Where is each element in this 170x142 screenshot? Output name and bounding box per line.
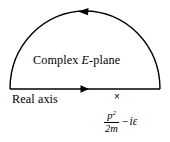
- plane-label-prefix: Complex: [33, 53, 82, 67]
- pole-fraction: p2 2m: [104, 110, 119, 134]
- pole-cross-icon: ×: [114, 92, 120, 102]
- pole-imaginary-part: −iε: [122, 116, 137, 128]
- minus-operator: −: [122, 115, 129, 127]
- pole-numerator-exponent: 2: [112, 109, 116, 117]
- contour-diagram: [0, 0, 170, 142]
- pole-numerator: p2: [106, 110, 117, 122]
- pole-denominator: 2m: [104, 123, 119, 135]
- semicircle-arc: [10, 11, 160, 89]
- complex-plane-label: Complex E-plane: [33, 54, 120, 66]
- plane-label-suffix: -plane: [89, 53, 120, 67]
- epsilon-term: iε: [130, 115, 138, 127]
- complex-plane-figure: Complex E-plane Real axis × p2 2m −iε: [0, 0, 170, 142]
- arc-arrowhead-icon: [78, 8, 89, 15]
- axis-arrowhead-icon: [81, 85, 90, 93]
- pole-position-label: p2 2m −iε: [104, 110, 137, 134]
- energy-symbol: E: [82, 53, 90, 67]
- real-axis-label: Real axis: [12, 93, 58, 105]
